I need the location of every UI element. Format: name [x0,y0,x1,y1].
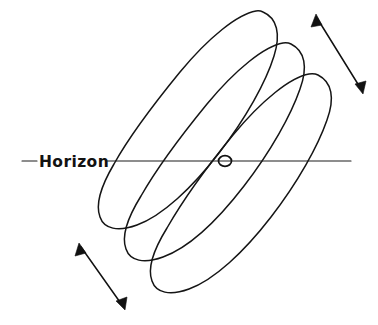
orbit-ellipse-front [150,74,331,293]
arrow-lower-left [75,243,127,310]
orbit-horizon-figure: Horizon [0,0,378,325]
arrow-lower-left-shaft [81,247,122,305]
arrow-upper-right-head-start [311,14,322,27]
horizon-label: Horizon [39,153,109,171]
diagram-canvas: Horizon [0,0,378,325]
orbit-ellipse-middle [124,43,304,261]
arrow-lower-left-head-start [75,243,86,256]
arrow-upper-right [311,14,366,94]
